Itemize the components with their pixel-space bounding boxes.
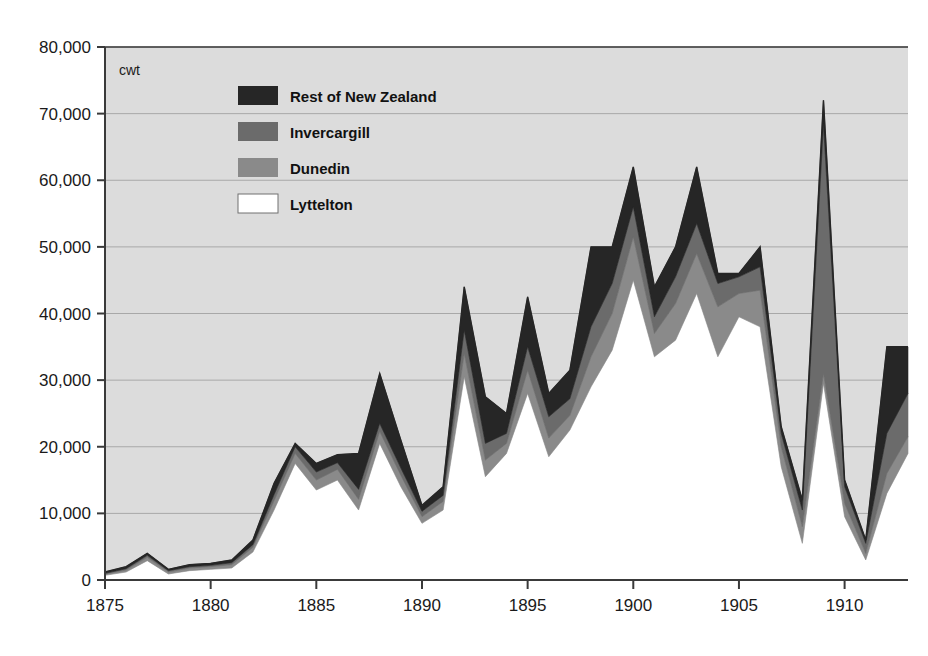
y-tick-label-80000: 80,000 bbox=[39, 38, 91, 57]
legend-label-rest-of-new-zealand: Rest of New Zealand bbox=[290, 88, 437, 105]
y-tick-label-0: 0 bbox=[82, 571, 91, 590]
y-tick-label-70000: 70,000 bbox=[39, 105, 91, 124]
unit-label-group: cwt bbox=[119, 62, 140, 78]
y-tick-label-20000: 20,000 bbox=[39, 438, 91, 457]
y-tick-label-40000: 40,000 bbox=[39, 305, 91, 324]
y-tick-label-50000: 50,000 bbox=[39, 238, 91, 257]
x-tick-label-1895: 1895 bbox=[509, 596, 547, 615]
x-tick-label-1905: 1905 bbox=[720, 596, 758, 615]
x-tick-label-1875: 1875 bbox=[86, 596, 124, 615]
y-tick-label-30000: 30,000 bbox=[39, 371, 91, 390]
legend-label-dunedin: Dunedin bbox=[290, 160, 350, 177]
unit-label: cwt bbox=[119, 62, 140, 78]
x-tick-label-1890: 1890 bbox=[403, 596, 441, 615]
legend-label-lyttelton: Lyttelton bbox=[290, 196, 353, 213]
stacked-area-chart: 010,00020,00030,00040,00050,00060,00070,… bbox=[0, 0, 928, 656]
legend-swatch-rest-of-new-zealand bbox=[238, 86, 278, 105]
x-tick-label-1900: 1900 bbox=[614, 596, 652, 615]
legend-swatch-dunedin bbox=[238, 158, 278, 177]
legend-swatch-invercargill bbox=[238, 122, 278, 141]
legend-swatch-lyttelton bbox=[238, 194, 278, 213]
chart-container: 010,00020,00030,00040,00050,00060,00070,… bbox=[0, 0, 928, 656]
x-tick-label-1880: 1880 bbox=[192, 596, 230, 615]
x-tick-label-1885: 1885 bbox=[297, 596, 335, 615]
legend-label-invercargill: Invercargill bbox=[290, 124, 370, 141]
y-tick-label-10000: 10,000 bbox=[39, 504, 91, 523]
x-tick-label-1910: 1910 bbox=[826, 596, 864, 615]
y-tick-label-60000: 60,000 bbox=[39, 171, 91, 190]
